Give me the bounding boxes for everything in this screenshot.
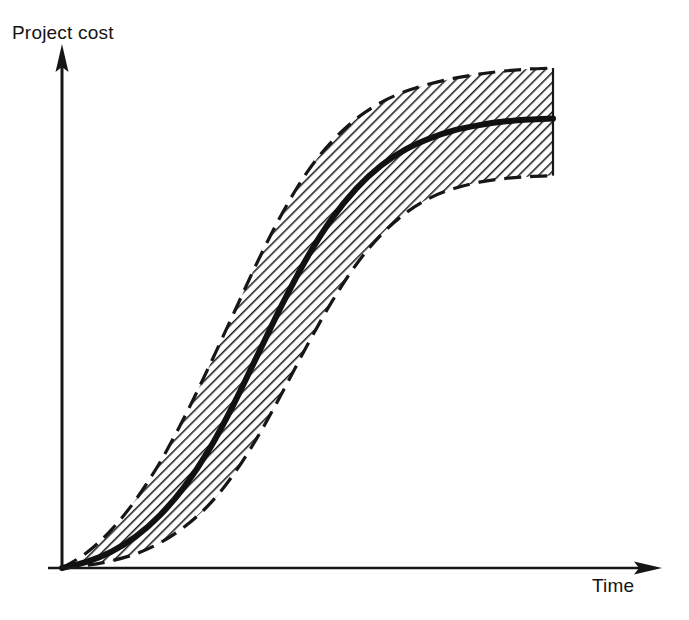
y-axis [56, 44, 69, 568]
x-axis-label: Time [592, 575, 634, 597]
y-axis-label: Project cost [12, 22, 114, 44]
chart-figure: Project cost Time [0, 0, 689, 620]
project-cost-s-curve-chart [0, 0, 689, 620]
uncertainty-band [0, 0, 689, 620]
x-axis [48, 562, 662, 575]
